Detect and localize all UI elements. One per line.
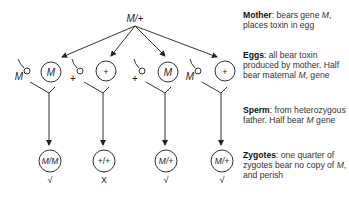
legend-title: Eggs (243, 50, 264, 60)
legend-mother: Mother: bears gene M, places toxin in eg… (243, 10, 349, 30)
parent-genotype: M/+ (127, 13, 144, 24)
zygote-label: M/M (42, 156, 59, 166)
zygote-label: M/+ (159, 156, 173, 166)
legend-text: : bears gene (272, 10, 322, 20)
sperm-label: + (70, 73, 76, 84)
zygote-label: +/+ (98, 156, 110, 166)
legend-text: , gene (306, 70, 330, 80)
legend-title: Zygotes (243, 150, 276, 160)
sperm-label: M (186, 71, 195, 82)
egg-label: M (164, 67, 173, 78)
legend-sperm: Sperm: from heterozygous father. Half be… (243, 105, 349, 125)
survive-check: √ (220, 175, 225, 185)
survive-check: √ (48, 175, 53, 185)
sperm-label: M (15, 71, 24, 82)
legend-gene: M (298, 70, 305, 80)
survive-check: √ (164, 175, 169, 185)
legend-title: Mother (243, 10, 272, 20)
legend-title: Sperm (243, 105, 270, 115)
egg-label: + (103, 67, 108, 77)
egg-label: + (222, 67, 227, 77)
legend-gene: M (307, 115, 314, 125)
zygote-label: M/+ (215, 156, 229, 166)
legend-zygotes: Zygotes: one quarter of zygotes bear no … (243, 150, 349, 180)
legend-gene: M (322, 10, 329, 20)
legend-text: gene (314, 115, 336, 125)
perish-mark: X (101, 175, 107, 185)
legend-gene: M (337, 160, 344, 170)
legend-eggs: Eggs: all bear toxin produced by mother.… (243, 50, 349, 80)
egg-label: M (47, 67, 56, 78)
sperm-label: + (132, 73, 138, 84)
